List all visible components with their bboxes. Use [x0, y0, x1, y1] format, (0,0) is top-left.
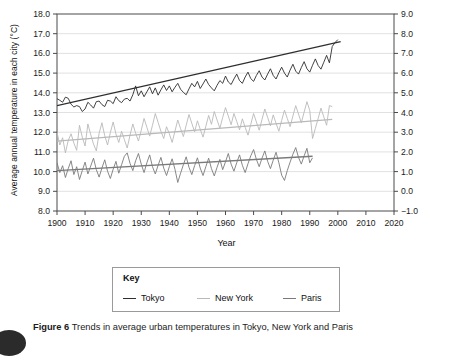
legend-label-paris: Paris	[301, 293, 322, 303]
y2-axis-tick-label: −1.0	[401, 206, 418, 216]
x-axis-title: Year	[0, 238, 453, 248]
y2-axis-tick-label: 4.0	[401, 108, 413, 118]
legend-label-new-york: New York	[215, 293, 253, 303]
x-axis-tick-label: 1980	[272, 218, 291, 228]
y2-axis-tick-label: 8.0	[401, 29, 413, 39]
legend-swatch-tokyo	[123, 298, 136, 299]
legend-title: Key	[123, 273, 140, 283]
x-axis-tick-label: 1930	[132, 218, 151, 228]
y2-axis-tick-label: 1.0	[401, 167, 413, 177]
y2-axis-tick-label: 2.0	[401, 147, 413, 157]
legend-swatch-new-york	[197, 298, 210, 299]
y-axis-tick-label: 16.0	[33, 48, 50, 58]
series-line-tokyo	[57, 40, 338, 112]
x-axis-tick-label: 1910	[76, 218, 95, 228]
legend-item-new-york: New York	[197, 293, 253, 303]
x-axis-tick-label: 1900	[47, 218, 66, 228]
x-axis-tick-label: 2010	[356, 218, 375, 228]
figure-caption-label: Figure 6	[33, 322, 69, 332]
x-axis-tick-label: 1970	[244, 218, 263, 228]
x-axis-tick-label: 2000	[328, 218, 347, 228]
y-axis-tick-label: 18.0	[33, 9, 50, 19]
y-axis-tick-label: 12.0	[33, 127, 50, 137]
legend-label-tokyo: Tokyo	[141, 293, 165, 303]
y-axis-tick-label: 9.0	[38, 186, 50, 196]
legend-item-tokyo: Tokyo	[123, 293, 165, 303]
legend-item-paris: Paris	[283, 293, 322, 303]
x-axis-tick-label: 1960	[216, 218, 235, 228]
series-line-paris	[57, 148, 313, 183]
y2-axis-tick-label: 5.0	[401, 88, 413, 98]
x-axis-tick-label: 1990	[300, 218, 319, 228]
y2-axis-tick-label: 0.0	[401, 186, 413, 196]
trend-line-paris	[57, 156, 313, 170]
temperature-line-chart: 8.09.010.011.012.013.014.015.016.017.018…	[0, 0, 453, 250]
y2-axis-tick-label: 9.0	[401, 9, 413, 19]
legend-swatch-paris	[283, 298, 296, 299]
page-corner-mark	[0, 330, 26, 356]
figure-caption-text: Trends in average urban temperatures in …	[72, 322, 353, 332]
y-axis-tick-label: 8.0	[38, 206, 50, 216]
y-axis-tick-label: 11.0	[34, 147, 50, 157]
series-line-new-york	[57, 102, 332, 153]
y-axis-tick-label: 17.0	[33, 29, 50, 39]
x-axis-tick-label: 1920	[104, 218, 123, 228]
x-axis-tick-label: 2020	[384, 218, 403, 228]
series-group	[57, 40, 341, 183]
trend-line-new-york	[57, 119, 332, 141]
figure-caption: Figure 6 Trends in average urban tempera…	[33, 322, 445, 332]
x-axis-tick-label: 1950	[188, 218, 207, 228]
y-axis-tick-label: 14.0	[33, 88, 50, 98]
y-axis-tick-label: 15.0	[33, 68, 50, 78]
y2-axis-tick-label: 3.0	[401, 127, 413, 137]
y2-axis-tick-label: 7.0	[401, 48, 413, 58]
y-axis-tick-label: 13.0	[33, 108, 50, 118]
chart-legend: Key Tokyo New York Paris	[112, 267, 340, 312]
y2-axis-tick-label: 6.0	[401, 68, 413, 78]
y-axis-tick-label: 10.0	[33, 167, 50, 177]
x-axis-tick-label: 1940	[160, 218, 179, 228]
